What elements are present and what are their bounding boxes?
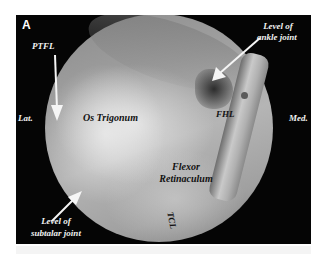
ankle-joint-label-line1: Level of bbox=[248, 21, 308, 31]
arthroscopic-view-circle bbox=[45, 15, 273, 242]
ankle-joint-label-line2: ankle joint bbox=[244, 32, 310, 42]
lateral-orientation-label: Lat. bbox=[18, 113, 33, 123]
tendon-marker bbox=[241, 92, 248, 99]
flexor-retinaculum-label-line1: Flexor bbox=[156, 162, 216, 172]
flexor-retinaculum-label-line2: Retinaculum bbox=[146, 174, 226, 184]
subtalar-joint-label-line2: subtalar joint bbox=[18, 228, 94, 238]
arthroscopic-figure-panel: A PTFL Level of ankle joint Lat. Med. FH… bbox=[16, 15, 311, 244]
ptfl-label: PTFL bbox=[32, 41, 55, 51]
medial-orientation-label: Med. bbox=[289, 113, 308, 123]
caption-spacer bbox=[16, 246, 311, 254]
fhl-label: FHL bbox=[216, 109, 235, 119]
subtalar-joint-label-line1: Level of bbox=[26, 216, 86, 226]
os-trigonum-label: Os Trigonum bbox=[83, 113, 138, 123]
panel-label: A bbox=[22, 18, 31, 32]
ankle-joint-recess bbox=[195, 69, 233, 109]
